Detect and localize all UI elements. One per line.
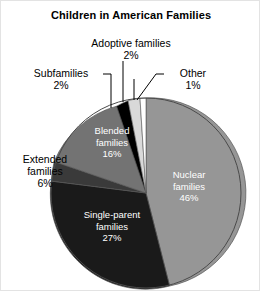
slice-label-nuclear-families: Nuclear families 46% <box>153 169 225 204</box>
slice-label-nuclear-families-value: 46% <box>153 192 225 204</box>
leader-line-other <box>137 74 164 100</box>
slice-label-other: Other 1% <box>163 67 223 91</box>
slice-label-single-parent-families: Single-parent families 27% <box>63 209 161 244</box>
slice-label-subfamilies-name: Subfamilies <box>19 67 103 79</box>
slice-label-nuclear-families-line2: families <box>153 181 225 193</box>
slice-label-extended-families-line2: families <box>5 165 85 177</box>
slice-label-subfamilies-value: 2% <box>19 79 103 91</box>
leader-line-subfamilies <box>103 74 111 108</box>
slice-label-extended-families-value: 6% <box>5 177 85 189</box>
slice-label-nuclear-families-line1: Nuclear <box>153 169 225 181</box>
slice-label-blended-families-value: 16% <box>77 148 147 160</box>
slice-label-single-parent-families-value: 27% <box>63 232 161 244</box>
slice-label-blended-families-line1: Blended <box>77 125 147 137</box>
slice-label-adoptive-families: Adoptive families 2% <box>63 37 199 61</box>
slice-label-adoptive-families-name: Adoptive families <box>63 37 199 49</box>
slice-label-single-parent-families-line2: families <box>63 221 161 233</box>
pie-chart-figure: Children in American Families Adoptive f… <box>0 0 260 291</box>
slice-label-extended-families-line1: Extended <box>5 153 85 165</box>
slice-label-other-value: 1% <box>163 79 223 91</box>
slice-label-blended-families-line2: families <box>77 137 147 149</box>
slice-label-subfamilies: Subfamilies 2% <box>19 67 103 91</box>
slice-label-extended-families: Extended families 6% <box>5 153 85 189</box>
slice-label-blended-families: Blended families 16% <box>77 125 147 160</box>
slice-label-single-parent-families-line1: Single-parent <box>63 209 161 221</box>
slice-label-adoptive-families-value: 2% <box>63 49 199 61</box>
slice-label-other-name: Other <box>163 67 223 79</box>
